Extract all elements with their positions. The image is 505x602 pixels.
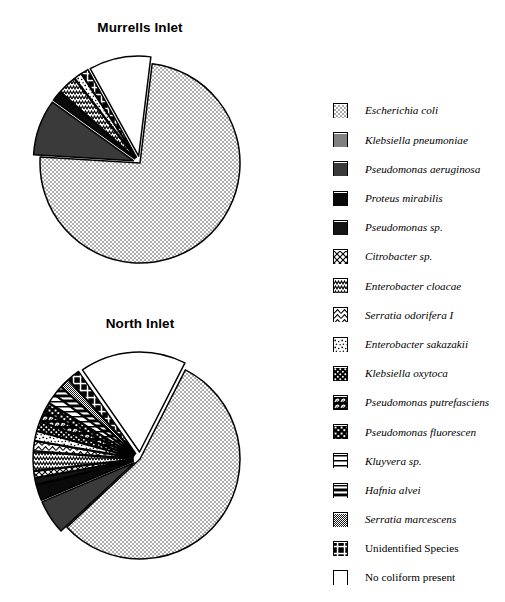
legend-label: Pseudomonas aeruginosa (365, 163, 480, 175)
legend-label: Enterobacter sakazakii (365, 338, 468, 350)
legend-row: Klebsiella pneumoniae (333, 125, 505, 154)
legend-label: Serratia odorifera I (365, 309, 453, 321)
figure-root: Murrells Inlet North Inlet Escherichia c… (0, 0, 505, 602)
chart-panel-murrells-inlet: Murrells Inlet (0, 4, 320, 304)
chart-panel-north-inlet: North Inlet (0, 308, 320, 602)
legend-label: Klebsiella pneumoniae (365, 134, 468, 146)
legend-label: Hafnia alvei (365, 484, 421, 496)
legend-row: Pseudomonas fluorescen (333, 417, 505, 446)
legend-swatch-enterobacter-cloacae (333, 278, 348, 293)
legend-swatch-kluyvera-sp (333, 453, 348, 468)
legend-row: Hafnia alvei (333, 475, 505, 504)
pie-wrap-north-inlet (0, 331, 320, 591)
legend-row: Enterobacter cloacae (333, 271, 505, 300)
legend-label: Proteus mirabilis (365, 192, 443, 204)
legend-label: Enterobacter cloacae (365, 280, 461, 292)
legend-row: Serratia odorifera I (333, 300, 505, 329)
legend-swatch-pseudomonas-sp (333, 220, 348, 235)
legend-row: Unidentified Species (333, 534, 505, 563)
legend-label: Serratia marcescens (365, 513, 456, 525)
legend-row: Kluyvera sp. (333, 446, 505, 475)
legend-row: Pseudomonas putrefasciens (333, 388, 505, 417)
legend-swatch-unidentified-species (333, 541, 348, 556)
legend-swatch-pseudomonas-fluorescen (333, 424, 348, 439)
pie-chart-north-inlet (0, 331, 320, 591)
legend-swatch-pseudomonas-aeruginosa (333, 161, 348, 176)
legend-swatch-serratia-odorifera-i (333, 307, 348, 322)
legend-row: Citrobacter sp. (333, 242, 505, 271)
pie-wrap-murrells-inlet (0, 35, 320, 295)
legend-swatch-no-coliform-present (333, 570, 348, 585)
legend-swatch-escherichia-coli (333, 103, 348, 118)
legend-row: Enterobacter sakazakii (333, 330, 505, 359)
chart-title-north-inlet: North Inlet (0, 308, 280, 331)
legend-row: Escherichia coli (333, 96, 505, 125)
legend-swatch-proteus-mirabilis (333, 191, 348, 206)
legend-label: No coliform present (365, 571, 455, 583)
legend-label: Citrobacter sp. (365, 250, 432, 262)
legend-row: Proteus mirabilis (333, 184, 505, 213)
legend-swatch-pseudomonas-putrefasciens (333, 395, 348, 410)
legend-swatch-klebsiella-oxytoca (333, 366, 348, 381)
legend-swatch-hafnia-alvei (333, 483, 348, 498)
legend-label: Pseudomonas fluorescen (365, 426, 476, 438)
legend-label: Escherichia coli (365, 104, 438, 116)
legend-label: Pseudomonas putrefasciens (365, 396, 489, 408)
legend-label: Unidentified Species (365, 542, 459, 554)
legend-swatch-enterobacter-sakazakii (333, 337, 348, 352)
chart-title-murrells-inlet: Murrells Inlet (0, 4, 280, 35)
legend: Escherichia coliKlebsiella pneumoniaePse… (333, 96, 505, 592)
legend-row: Serratia marcescens (333, 505, 505, 534)
legend-row: No coliform present (333, 563, 505, 592)
legend-label: Pseudomonas sp. (365, 221, 443, 233)
legend-label: Kluyvera sp. (365, 455, 422, 467)
legend-row: Klebsiella oxytoca (333, 359, 505, 388)
pie-chart-murrells-inlet (0, 35, 320, 295)
legend-swatch-klebsiella-pneumoniae (333, 132, 348, 147)
legend-swatch-citrobacter-sp (333, 249, 348, 264)
legend-label: Klebsiella oxytoca (365, 367, 448, 379)
legend-row: Pseudomonas aeruginosa (333, 154, 505, 183)
legend-swatch-serratia-marcescens (333, 512, 348, 527)
legend-row: Pseudomonas sp. (333, 213, 505, 242)
